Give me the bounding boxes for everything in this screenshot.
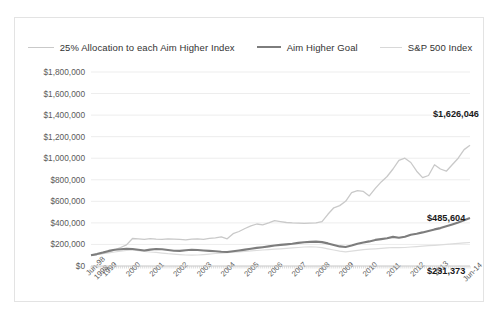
data-label-alloc25: $1,626,046 xyxy=(433,109,479,119)
x-axis-tick-label: 2003 xyxy=(195,260,213,278)
x-axis-tick-label: 2011 xyxy=(385,260,403,278)
data-annotations: $1,626,046$485,604$231,373 xyxy=(427,109,479,276)
x-axis-tick-label: 2000 xyxy=(124,260,142,278)
x-axis-tick-label: 2012 xyxy=(408,260,426,278)
y-axis-tick-labels: $1,800,000$1,600,000$1,400,000$1,200,000… xyxy=(43,67,85,271)
x-axis-tick-label: 2007 xyxy=(290,260,308,278)
x-axis-tick-labels: Jun-981998199920002001200220032004200520… xyxy=(84,255,484,284)
x-axis-tick-label: 2002 xyxy=(171,260,189,278)
y-axis-tick-label: $400,000 xyxy=(50,218,85,228)
x-axis-tick-label: 2009 xyxy=(337,260,355,278)
x-axis-tick-label: 2001 xyxy=(148,260,166,278)
plot-area: $1,800,000$1,600,000$1,400,000$1,200,000… xyxy=(15,18,485,303)
y-axis-tick-label: $600,000 xyxy=(50,196,85,206)
x-axis-tick-label: 2006 xyxy=(266,260,284,278)
y-axis-tick-label: $800,000 xyxy=(50,175,85,185)
y-axis-tick-label: $0 xyxy=(76,261,86,271)
x-axis-tick-label: 2005 xyxy=(242,260,260,278)
y-axis-tick-label: $1,400,000 xyxy=(43,110,85,120)
y-axis-tick-label: $200,000 xyxy=(50,239,85,249)
chart-frame: 25% Allocation to each Aim Higher Index … xyxy=(14,17,484,302)
x-axis-tick-label: 2004 xyxy=(219,260,237,278)
gridlines xyxy=(91,72,470,266)
data-label-sp500: $231,373 xyxy=(427,266,465,276)
x-axis-tick-label: 2008 xyxy=(313,260,331,278)
y-axis-tick-label: $1,000,000 xyxy=(43,153,85,163)
y-axis-tick-label: $1,200,000 xyxy=(43,132,85,142)
data-series-lines xyxy=(91,145,470,255)
series-line-goal xyxy=(91,218,470,255)
data-label-goal: $485,604 xyxy=(427,213,466,223)
y-axis-tick-label: $1,600,000 xyxy=(43,89,85,99)
series-line-alloc25 xyxy=(91,145,470,255)
y-axis-tick-label: $1,800,000 xyxy=(43,67,85,77)
line-chart: $1,800,000$1,600,000$1,400,000$1,200,000… xyxy=(15,18,485,303)
x-axis-tick-label: 2010 xyxy=(361,260,379,278)
